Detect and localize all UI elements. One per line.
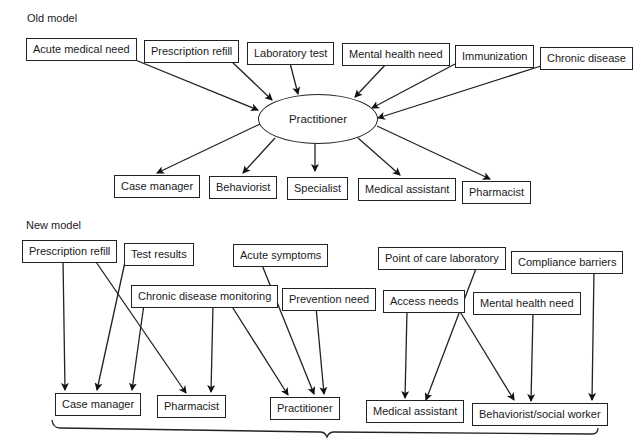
old-center-practitioner: Practitioner [258,94,378,144]
old-input-acute-medical-need: Acute medical need [26,38,137,61]
new-output-pharmacist: Pharmacist [157,395,226,418]
old-input-chronic-disease: Chronic disease [540,47,633,70]
new-input-mental-health-need: Mental health need [473,292,581,315]
page-header-fragment [530,0,640,8]
old-input-mental-health-need: Mental health need [342,43,450,66]
old-input-immunization: Immunization [455,45,534,68]
old-output-behaviorist: Behaviorist [209,176,277,199]
new-input-test-results: Test results [124,243,194,266]
new-input-prescription-refill: Prescription refill [22,240,117,263]
old-output-medical-assistant: Medical assistant [358,178,456,201]
old-output-specialist: Specialist [287,177,348,200]
old-input-laboratory-test: Laboratory test [247,42,334,65]
old-output-case-manager: Case manager [114,175,200,198]
new-output-practitioner: Practitioner [270,397,340,420]
new-output-case-manager: Case manager [55,393,141,416]
old-model-label: Old model [27,12,77,24]
new-output-medical-assistant: Medical assistant [366,400,464,423]
new-input-prevention-need: Prevention need [282,288,376,311]
new-model-label: New model [26,219,81,231]
new-input-compliance-barriers: Compliance barriers [511,251,623,274]
new-input-access-needs: Access needs [383,290,465,313]
new-input-chronic-disease-monitoring: Chronic disease monitoring [131,285,278,308]
old-output-pharmacist: Pharmacist [462,181,531,204]
new-input-acute-symptoms: Acute symptoms [233,244,328,267]
old-input-prescription-refill: Prescription refill [144,40,239,63]
new-input-point-of-care-laboratory: Point of care laboratory [378,247,506,270]
new-output-behaviorist-social-worker: Behaviorist/social worker [472,403,608,426]
